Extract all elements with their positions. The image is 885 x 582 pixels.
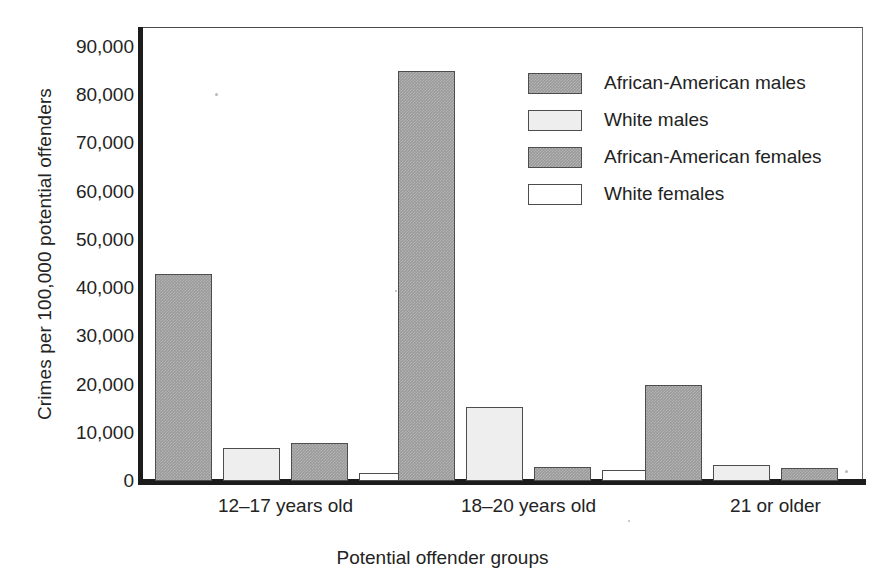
legend-swatch (528, 184, 582, 205)
legend: African-American malesWhite malesAfrican… (528, 66, 858, 214)
scan-speckle (845, 470, 848, 473)
legend-swatch (528, 73, 582, 94)
legend-swatch (528, 110, 582, 131)
legend-label: African-American males (604, 72, 806, 94)
bar (291, 443, 348, 481)
bar (155, 274, 212, 481)
bar (713, 465, 770, 481)
legend-item: African-American males (528, 66, 858, 100)
legend-swatch (528, 147, 582, 168)
x-axis-group-label: 18–20 years old (461, 495, 596, 517)
scan-speckle (628, 520, 630, 522)
legend-label: White females (604, 183, 724, 205)
x-axis-title: Potential offender groups (0, 547, 885, 569)
bar (466, 407, 523, 481)
bar (781, 468, 838, 481)
legend-label: White males (604, 109, 709, 131)
x-axis-group-label: 21 or older (730, 495, 821, 517)
bar (398, 71, 455, 481)
bar (645, 385, 702, 481)
legend-item: White males (528, 103, 858, 137)
legend-item: African-American females (528, 140, 858, 174)
scan-speckle (215, 93, 218, 96)
bar (223, 448, 280, 481)
x-axis-group-label: 12–17 years old (218, 495, 353, 517)
bar-chart: Crimes per 100,000 potential offenders 0… (0, 0, 885, 582)
legend-label: African-American females (604, 146, 822, 168)
scan-speckle (395, 290, 397, 292)
bar (534, 467, 591, 481)
legend-item: White females (528, 177, 858, 211)
